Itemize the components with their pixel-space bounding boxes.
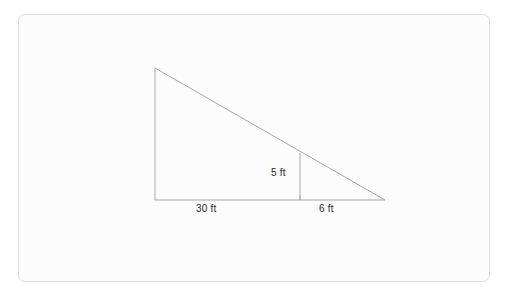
label-interior-height: 5 ft — [271, 167, 286, 178]
figure-container: 30 ft 6 ft 5 ft — [0, 0, 510, 295]
triangle-diagram — [0, 0, 510, 295]
triangle-outline — [155, 68, 385, 200]
triangle-hypotenuse — [155, 68, 385, 200]
label-base-left: 30 ft — [196, 203, 216, 214]
label-base-right: 6 ft — [319, 203, 334, 214]
